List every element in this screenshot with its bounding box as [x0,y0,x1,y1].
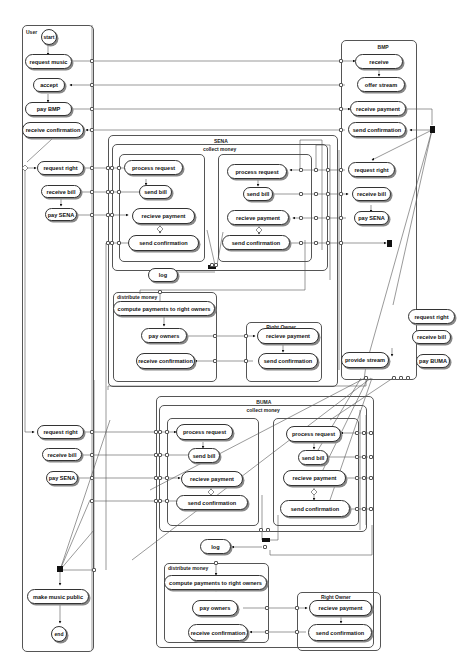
buma-receive-confirmation[interactable]: receive confirmation [188,624,248,641]
port [158,430,162,434]
buma-right-recieve-payment[interactable]: recieve payment [283,470,346,486]
port [90,83,94,87]
port [117,166,121,170]
buma-right-process-request[interactable]: process request [286,426,341,442]
user-pay-bmp[interactable]: pay BMP [25,102,72,116]
port [158,499,162,503]
port [314,216,318,220]
port [244,334,248,338]
port [339,192,343,196]
buma-left-recieve-payment[interactable]: recieve payment [181,471,243,487]
user-accept[interactable]: accept [33,78,65,92]
port [399,376,403,380]
port [263,545,267,549]
port [326,241,330,245]
sena-pay-owners[interactable]: pay owners [141,328,187,343]
sena-left-send-confirmation[interactable]: send confirmation [128,235,199,251]
bmp-receive[interactable]: receive [355,54,403,69]
sena-left-send-bill[interactable]: send bill [139,185,172,199]
sena-compute-payments[interactable]: compute payments to right owners [113,301,215,316]
user-request-music[interactable]: request music [25,54,72,69]
user-receive-bill-buma[interactable]: receive bill [42,448,82,461]
buma-owner-send-confirmation[interactable]: send confirmation [308,624,372,641]
port [165,476,169,480]
bmp-receive-bill-sena[interactable]: receive bill [352,187,391,201]
sena-left-process-request[interactable]: process request [124,160,183,175]
port [314,168,318,172]
end-node[interactable]: end [51,626,67,642]
sena-log[interactable]: log [148,268,178,282]
bmp-receive-bill-buma[interactable]: receive bill [412,330,451,344]
sena-right-process-request[interactable]: process request [227,164,287,179]
port [355,455,359,459]
buma-owner-recieve-payment[interactable]: recieve payment [309,600,372,616]
user-request-right-buma[interactable]: request right [37,425,84,439]
port [90,107,94,111]
port [213,359,217,363]
port [265,606,269,610]
user-make-music-public[interactable]: make music public [27,589,89,604]
port [355,476,359,480]
port [165,453,169,457]
port [110,241,114,245]
user-receive-bill-sena[interactable]: receive bill [41,185,81,198]
bmp-request-right-buma[interactable]: request right [408,309,455,324]
port [355,431,359,435]
buma-pay-owners[interactable]: pay owners [192,600,238,616]
bmp-request-right-sena[interactable]: request right [348,162,395,177]
port [214,263,218,267]
buma-compute-payments[interactable]: compute payments to right owners [164,575,267,590]
bmp-receive-payment[interactable]: receive payment [350,101,406,116]
user-request-right-sena[interactable]: request right [37,161,84,175]
port [90,190,94,194]
sena-right-send-bill[interactable]: send bill [243,187,273,201]
port [299,168,303,172]
user-pay-sena[interactable]: pay SENA [45,208,77,221]
bmp-offer-stream[interactable]: offer stream [357,77,405,92]
port [90,128,94,132]
bmp-send-confirmation[interactable]: send confirmation [348,122,406,137]
port [265,630,269,634]
port [295,606,299,610]
port [299,192,303,196]
sena-left-recieve-payment[interactable]: recieve payment [132,208,195,224]
user-lane: User [22,25,94,652]
buma-right-send-confirmation[interactable]: send confirmation [280,500,350,517]
user-pay-sena-2[interactable]: pay SENA [46,471,78,485]
sena-owner-send-confirmation[interactable]: send confirmation [258,353,318,369]
port [369,455,373,459]
buma-collect-title: collect money [247,407,280,413]
port [90,476,94,480]
bmp-pay-sena[interactable]: pay SENA [354,211,389,225]
port [90,213,94,217]
sena-receive-confirmation[interactable]: receive confirmation [136,353,195,369]
sena-right-recieve-payment[interactable]: recieve payment [227,210,289,225]
user-receive-confirmation[interactable]: receive confirmation [22,122,84,138]
sena-collect-title: collect money [203,146,236,152]
port [364,376,368,380]
sena-owner-recieve-payment[interactable]: recieve payment [257,328,319,344]
port [90,166,94,170]
bmp-lane-title: BMP [378,44,389,50]
buma-log[interactable]: log [200,539,231,554]
port [339,107,343,111]
port [339,83,343,87]
buma-left-send-confirmation[interactable]: send confirmation [176,495,248,510]
user-lane-title: User [26,29,37,35]
port [110,213,114,217]
sena-distribute-title: distribute money [117,294,157,300]
port [362,476,366,480]
start-node[interactable]: start [41,29,57,45]
buma-left-send-bill[interactable]: send bill [188,448,220,463]
port [339,241,343,245]
bmp-provide-stream[interactable]: provide stream [341,352,389,368]
buma-left-process-request[interactable]: process request [176,424,233,440]
port [369,507,373,511]
buma-right-send-bill[interactable]: send bill [298,450,328,465]
port [392,376,396,380]
port [362,455,366,459]
port [165,499,169,503]
sena-right-send-confirmation[interactable]: send confirmation [222,235,290,250]
bmp-pay-buma[interactable]: pay BUMA [416,354,450,368]
port [244,359,248,363]
